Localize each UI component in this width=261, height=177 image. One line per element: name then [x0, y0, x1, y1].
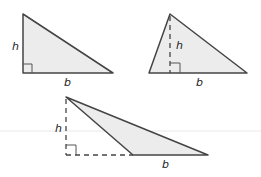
height-label: h	[12, 40, 19, 53]
right-angle-marker	[66, 145, 76, 155]
base-label: b	[64, 76, 71, 89]
base-label: b	[196, 76, 203, 89]
acute-triangle: h b	[149, 14, 247, 89]
height-label: h	[176, 39, 183, 52]
obtuse-triangle: h b	[55, 97, 208, 171]
height-label: h	[55, 122, 62, 135]
base-label: b	[162, 158, 169, 171]
right-triangle: h b	[12, 14, 113, 89]
triangles-diagram: h b h b h b	[0, 0, 261, 177]
